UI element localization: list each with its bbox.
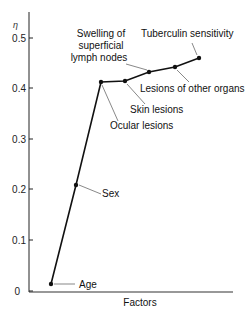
- y-tick-0.1: 0.1: [12, 235, 26, 246]
- y-tick-0.2: 0.2: [12, 184, 26, 195]
- y-ticks: [29, 38, 33, 291]
- y-tick-0.4: 0.4: [12, 83, 26, 94]
- point-sex: [74, 183, 78, 187]
- point-age: [49, 282, 53, 286]
- y-tick-0.3: 0.3: [12, 134, 26, 145]
- annotation-swelling-line2: superficial: [78, 40, 123, 51]
- y-tick-0.5: 0.5: [12, 33, 26, 44]
- point-other-organs: [173, 65, 177, 69]
- line-chart: 0 0.1 0.2 0.3 0.4 0.5 η Factors Age Sex …: [0, 0, 252, 313]
- annotation-skin-lesions: Skin lesions: [130, 104, 183, 115]
- annotation-swelling-line3: lymph nodes: [71, 52, 128, 63]
- annotation-sex: Sex: [102, 188, 119, 199]
- point-skin: [123, 79, 127, 83]
- annotation-lesions-other-organs: Lesions of other organs: [140, 83, 245, 94]
- y-tick-0: 0: [14, 286, 20, 297]
- point-swelling: [147, 70, 151, 74]
- point-tuberculin: [197, 56, 201, 60]
- point-ocular: [99, 80, 103, 84]
- x-axis-label: Factors: [123, 297, 156, 308]
- y-tick-labels: 0 0.1 0.2 0.3 0.4 0.5: [12, 33, 26, 297]
- annotation-ocular-lesions: Ocular lesions: [110, 120, 173, 131]
- annotation-age: Age: [79, 279, 97, 290]
- annotation-tuberculin-sensitivity: Tuberculin sensitivity: [141, 28, 233, 39]
- annotation-swelling-line1: Swelling of: [77, 28, 126, 39]
- y-axis-label: η: [13, 20, 18, 30]
